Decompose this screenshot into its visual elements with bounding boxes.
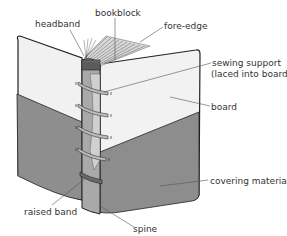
label-raised-band: raised band [24, 207, 77, 217]
right-board [100, 50, 200, 213]
label-sewing-support-2: (laced into board) [211, 69, 287, 79]
label-spine: spine [133, 224, 157, 234]
label-covering-material: covering material [210, 176, 287, 186]
label-board: board [211, 102, 237, 112]
label-fore-edge: fore-edge [164, 21, 207, 31]
label-bookblock: bookblock [95, 8, 141, 18]
label-sewing-support-1: sewing support [212, 58, 281, 68]
left-board [17, 36, 82, 200]
label-headband: headband [35, 19, 80, 29]
bookbinding-diagram [0, 0, 287, 236]
